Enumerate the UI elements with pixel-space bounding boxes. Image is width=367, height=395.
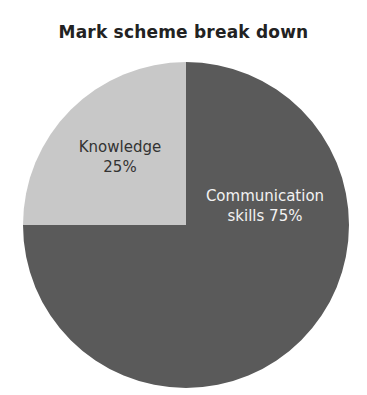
slice-label-knowledge: Knowledge 25%: [60, 137, 180, 177]
communication-label-value: skills 75%: [190, 206, 340, 226]
knowledge-label-text: Knowledge: [60, 137, 180, 157]
knowledge-label-value: 25%: [60, 157, 180, 177]
slice-label-communication: Communication skills 75%: [190, 186, 340, 226]
communication-label-text: Communication: [190, 186, 340, 206]
